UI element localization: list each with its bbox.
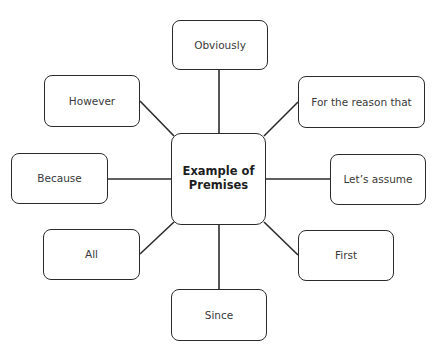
node-all: All — [43, 229, 140, 280]
central-topic-line-1: Example of — [183, 165, 255, 179]
central-topic-line-2: Premises — [183, 179, 255, 193]
node-however: However — [44, 75, 140, 127]
node-label: First — [335, 249, 357, 262]
node-label: Let’s assume — [343, 173, 412, 186]
premises-mind-map: Example of Premises Obviously However Fo… — [0, 0, 442, 350]
connector-all — [140, 222, 174, 254]
node-obviously: Obviously — [172, 20, 268, 70]
central-topic-node: Example of Premises — [171, 133, 266, 225]
node-for-the-reason-that: For the reason that — [298, 76, 425, 128]
node-lets-assume: Let’s assume — [330, 154, 426, 205]
node-label: For the reason that — [311, 96, 412, 109]
node-first: First — [298, 230, 394, 281]
node-label: All — [85, 248, 98, 261]
node-label: Because — [37, 172, 81, 185]
node-because: Because — [11, 153, 108, 204]
node-label: Since — [205, 309, 233, 322]
node-label: Obviously — [194, 39, 246, 52]
connector-however — [140, 101, 174, 136]
node-since: Since — [171, 289, 267, 341]
connector-for-the-reason-that — [264, 102, 298, 136]
node-label: However — [69, 95, 115, 108]
connector-first — [264, 222, 298, 255]
